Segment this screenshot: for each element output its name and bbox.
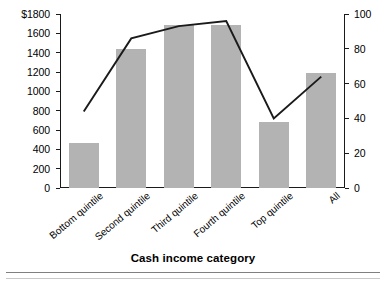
y-axis-right-tick (345, 48, 349, 49)
y-axis-left-tick (56, 110, 60, 111)
y-axis-right-tick-label: 40 (354, 113, 386, 123)
footer-divider (6, 272, 380, 273)
y-axis-left-tick-label: 1600 (0, 28, 50, 38)
y-axis-right-tick (345, 153, 349, 154)
y-axis-right-tick (345, 14, 349, 15)
y-axis-left-tick-label: 400 (0, 144, 50, 154)
y-axis-left-tick-label: $1800 (0, 9, 50, 19)
y-axis-left-tick-label: 0 (0, 183, 50, 193)
y-axis-left-tick (56, 33, 60, 34)
y-axis-left-tick-label: 600 (0, 125, 50, 135)
y-axis-left-tick (56, 91, 60, 92)
y-axis-left-tick (56, 52, 60, 53)
plot-area: 02004006008001000120014001600$1800 02040… (60, 14, 345, 188)
y-axis-left-tick (56, 188, 60, 189)
x-axis-category-label: All (327, 190, 343, 206)
y-axis-left-tick-label: 1400 (0, 48, 50, 58)
y-axis-right-tick-label: 100 (354, 9, 386, 19)
y-axis-right-tick (345, 118, 349, 119)
y-axis-left-tick (56, 72, 60, 73)
x-axis-title: Cash income category (0, 252, 386, 264)
y-axis-left-tick-label: 1000 (0, 86, 50, 96)
y-axis-right-tick-label: 80 (354, 44, 386, 54)
chart-container: 02004006008001000120014001600$1800 02040… (0, 0, 386, 284)
y-axis-left-tick (56, 168, 60, 169)
y-axis-right-tick-label: 20 (354, 148, 386, 158)
x-axis-category-labels: Bottom quintileSecond quintileThird quin… (60, 190, 345, 252)
line-series (60, 14, 345, 188)
y-axis-left-tick-label: 200 (0, 164, 50, 174)
y-axis-left-tick-label: 1200 (0, 67, 50, 77)
y-axis-right-tick-label: 60 (354, 79, 386, 89)
footer-divider-2 (6, 278, 380, 279)
y-axis-left-tick-label: 800 (0, 106, 50, 116)
y-axis-right-tick-label: 0 (354, 183, 386, 193)
y-axis-left-tick (56, 149, 60, 150)
y-axis-left-tick (56, 14, 60, 15)
y-axis-left-tick (56, 130, 60, 131)
x-axis-category-label: Fourth quintile (192, 190, 248, 239)
x-axis-category-label: Top quintile (249, 190, 295, 231)
y-axis-right-tick (345, 188, 349, 189)
y-axis-right-tick (345, 83, 349, 84)
